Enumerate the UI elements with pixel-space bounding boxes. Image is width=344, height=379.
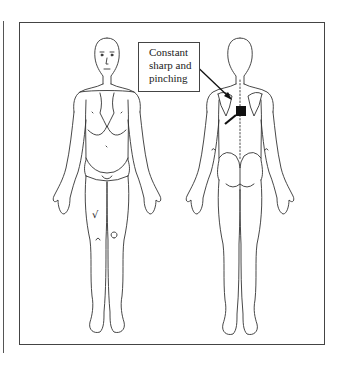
pain-description-callout: Constant sharp and pinching	[138, 42, 200, 92]
back-body-figure	[186, 38, 294, 335]
pain-mark-square	[236, 106, 246, 116]
pain-mark-tail	[225, 115, 236, 124]
callout-line-3: pinching	[149, 72, 199, 85]
callout-line-2: sharp and	[149, 59, 199, 72]
check-mark: √	[92, 209, 99, 220]
callout-line-1: Constant	[149, 46, 199, 59]
